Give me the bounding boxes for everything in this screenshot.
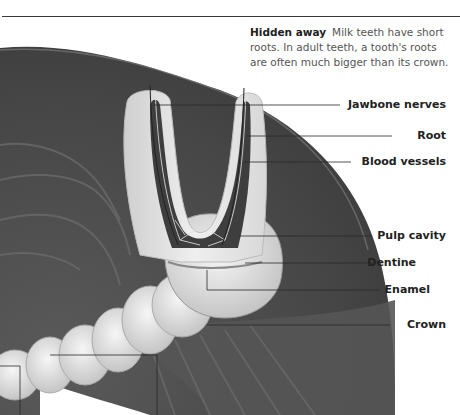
label-enamel: Enamel bbox=[385, 283, 430, 296]
label-root: Root bbox=[417, 129, 446, 142]
label-blood-vessels: Blood vessels bbox=[362, 155, 446, 168]
tooth-illustration bbox=[0, 0, 460, 415]
label-dentine: Dentine bbox=[367, 256, 416, 269]
label-jawbone-nerves: Jawbone nerves bbox=[348, 98, 446, 111]
label-crown: Crown bbox=[407, 318, 446, 331]
label-pulp-cavity: Pulp cavity bbox=[377, 229, 446, 242]
